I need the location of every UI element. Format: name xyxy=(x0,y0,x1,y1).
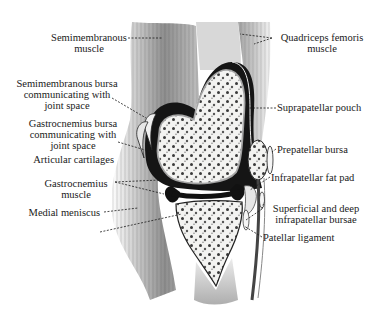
label-patellar-ligament: Patellar ligament xyxy=(263,232,363,243)
label-suprapatellar-pouch: Suprapatellar pouch xyxy=(277,102,381,113)
label-semimembranous-bursa: Semimembranous bursa communicating with … xyxy=(12,78,122,111)
label-medial-meniscus: Medial meniscus xyxy=(20,207,100,218)
label-superficial-deep-infrapatellar-bursae: Superficial and deep infrapatellar bursa… xyxy=(262,203,370,225)
label-quadriceps-femoris-muscle: Quadriceps femoris muscle xyxy=(272,32,372,54)
knee-bursae-diagram: Semimembranous muscle Semimembranous bur… xyxy=(0,0,381,312)
label-articular-cartilages: Articular cartilages xyxy=(20,154,114,165)
label-gastrocnemius-muscle: Gastrocnemius muscle xyxy=(40,178,112,200)
label-infrapatellar-fat-pad: Infrapatellar fat pad xyxy=(271,172,381,183)
label-semimembranous-muscle: Semimembranous muscle xyxy=(48,32,130,54)
label-gastrocnemius-bursa: Gastrocnemius bursa communicating with j… xyxy=(22,118,124,151)
label-prepatellar-bursa: Prepatellar bursa xyxy=(277,144,377,155)
